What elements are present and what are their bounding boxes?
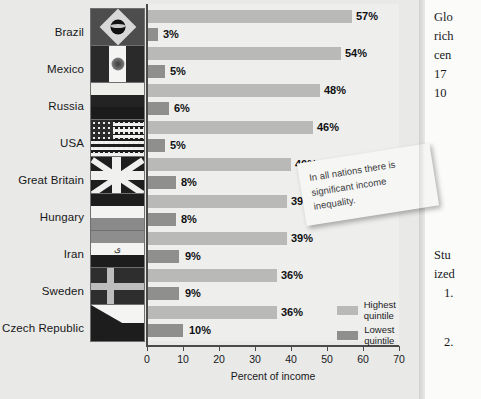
legend-item-lowest: Lowest quintile (337, 324, 425, 346)
iran-emblem-icon: ی (114, 245, 121, 254)
bar-value-highest-usa: 46% (317, 121, 339, 134)
x-tick-20 (219, 346, 220, 351)
legend-swatch-lowest (337, 331, 358, 340)
country-label-czech-republic: Czech Republic (2, 322, 84, 334)
bar-value-highest-mexico: 54% (345, 47, 367, 60)
country-label-mexico: Mexico (47, 63, 84, 75)
margin-line-6: Stu (434, 246, 481, 265)
margin-line-7: ized (434, 265, 481, 284)
x-tick-10 (183, 346, 184, 351)
bar-value-lowest-sweden: 9% (185, 287, 201, 300)
y-axis-line (146, 4, 148, 346)
legend-swatch-highest (337, 306, 358, 315)
country-label-column: Brazil Mexico Russia USA Great Britain H… (0, 0, 88, 399)
x-tick-0 (147, 346, 148, 351)
bar-value-lowest-great-britain: 8% (181, 176, 197, 189)
x-tick-label-50: 50 (321, 353, 333, 365)
bar-value-lowest-russia: 6% (174, 102, 190, 115)
margin-line-5: 10 (434, 84, 481, 103)
margin-line-4: 17 (434, 65, 481, 84)
margin-spacer (434, 303, 481, 333)
x-tick-50 (327, 346, 328, 351)
bar-highest-great-britain (147, 158, 291, 171)
czech-republic-flag (90, 304, 145, 342)
x-tick-label-0: 0 (144, 353, 150, 365)
income-inequality-figure: Brazil Mexico Russia USA Great Britain H… (0, 0, 425, 399)
iran-flag: ی (90, 230, 145, 268)
bar-value-highest-brazil: 57% (356, 10, 378, 23)
bar-value-lowest-mexico: 5% (170, 65, 186, 78)
bar-highest-usa (147, 121, 313, 134)
bar-lowest-mexico (147, 65, 165, 78)
bar-highest-iran (147, 232, 287, 245)
margin-line-3: cen (434, 46, 481, 65)
bar-value-highest-czech-republic: 36% (281, 306, 303, 319)
margin-list-item-1: 1. (434, 284, 481, 303)
country-label-brazil: Brazil (55, 26, 84, 38)
bar-lowest-iran (147, 250, 179, 263)
bar-value-highest-sweden: 36% (281, 269, 303, 282)
sweden-flag (90, 267, 145, 305)
margin-text-bottom: Stu ized 1. 2. (434, 246, 481, 352)
x-tick-label-40: 40 (285, 353, 297, 365)
great-britain-flag (90, 156, 145, 194)
bar-highest-sweden (147, 269, 277, 282)
bar-lowest-czech-republic (147, 324, 183, 337)
legend-item-highest: Highest quintile (337, 299, 425, 321)
x-tick-40 (291, 346, 292, 351)
bar-value-lowest-usa: 5% (170, 139, 186, 152)
country-label-russia: Russia (48, 100, 84, 112)
country-label-hungary: Hungary (40, 211, 84, 223)
bar-lowest-great-britain (147, 176, 176, 189)
x-tick-label-30: 30 (249, 353, 261, 365)
x-axis-title: Percent of income (231, 370, 316, 382)
bar-value-lowest-hungary: 8% (181, 213, 197, 226)
usa-flag (90, 119, 145, 157)
legend-label-highest: Highest quintile (364, 299, 425, 321)
x-tick-label-10: 10 (177, 353, 189, 365)
chart-legend: Highest quintile Lowest quintile (337, 299, 425, 349)
bar-highest-mexico (147, 47, 341, 60)
x-tick-label-20: 20 (213, 353, 225, 365)
bar-lowest-russia (147, 102, 169, 115)
margin-list-item-2: 2. (434, 333, 481, 352)
legend-label-lowest: Lowest quintile (364, 324, 425, 346)
hungary-flag (90, 193, 145, 231)
bar-value-lowest-czech-republic: 10% (189, 324, 211, 337)
margin-line-1: Glo (434, 8, 481, 27)
bar-highest-russia (147, 84, 320, 97)
bar-lowest-usa (147, 139, 165, 152)
bar-lowest-hungary (147, 213, 176, 226)
x-tick-label-70: 70 (393, 353, 405, 365)
country-label-usa: USA (60, 137, 84, 149)
x-tick-label-60: 60 (357, 353, 369, 365)
bar-value-highest-iran: 39% (291, 232, 313, 245)
mexico-flag (90, 45, 145, 83)
bar-value-lowest-iran: 9% (185, 250, 201, 263)
margin-line-2: rich (434, 27, 481, 46)
russia-flag (90, 82, 145, 120)
country-label-sweden: Sweden (42, 285, 84, 297)
bar-value-highest-russia: 48% (324, 84, 346, 97)
bar-lowest-sweden (147, 287, 179, 300)
country-label-great-britain: Great Britain (18, 174, 84, 186)
x-tick-30 (255, 346, 256, 351)
bar-highest-hungary (147, 195, 287, 208)
bar-value-lowest-brazil: 3% (163, 28, 179, 41)
bar-highest-brazil (147, 10, 352, 23)
country-label-iran: Iran (64, 248, 84, 260)
textbook-page: Brazil Mexico Russia USA Great Britain H… (0, 0, 481, 399)
margin-text-top: Glo rich cen 17 10 (434, 8, 481, 103)
bar-highest-czech-republic (147, 306, 277, 319)
brazil-flag (90, 8, 145, 46)
bar-lowest-brazil (147, 28, 158, 41)
